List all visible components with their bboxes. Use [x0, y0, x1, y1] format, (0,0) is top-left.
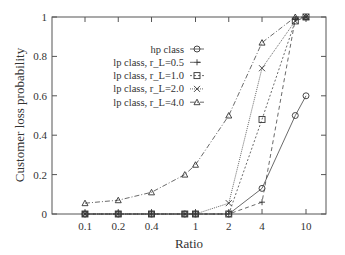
legend-label: lp class, r_L=4.0: [113, 97, 184, 108]
legend-label: hp class: [150, 44, 184, 55]
y-tick-label: 0.2: [33, 169, 47, 181]
y-tick-label: 1: [42, 11, 48, 23]
legend: hp classlp class, r_L=0.5lp class, r_L=1…: [113, 44, 204, 108]
x-tick-label: 2: [226, 220, 232, 232]
y-tick-label: 0: [42, 208, 48, 220]
series-3: [82, 14, 309, 217]
line-chart: 0.10.20.41241000.20.40.60.81 hp classlp …: [0, 0, 345, 255]
plot-frame: [52, 17, 326, 214]
series-1: [82, 14, 309, 217]
y-axis-title: Customer loss probability: [12, 47, 27, 182]
series-2: [82, 14, 309, 217]
y-tick-label: 0.8: [33, 50, 47, 62]
legend-label: lp class, r_L=1.0: [113, 70, 184, 81]
series-layer: [82, 14, 309, 217]
x-tick-label: 0.2: [111, 220, 125, 232]
y-tick-label: 0.6: [33, 90, 47, 102]
series-4: [82, 14, 309, 206]
y-tick-label: 0.4: [33, 129, 47, 141]
legend-label: lp class, r_L=0.5: [113, 57, 184, 68]
x-tick-label: 10: [301, 220, 313, 232]
x-axis-title: Ratio: [175, 236, 203, 251]
x-tick-label: 0.4: [145, 220, 159, 232]
x-tick-label: 1: [193, 220, 199, 232]
legend-label: lp class, r_L=2.0: [113, 83, 184, 94]
x-tick-label: 4: [259, 220, 265, 232]
x-tick-label: 0.1: [78, 220, 92, 232]
series-0: [82, 93, 309, 217]
